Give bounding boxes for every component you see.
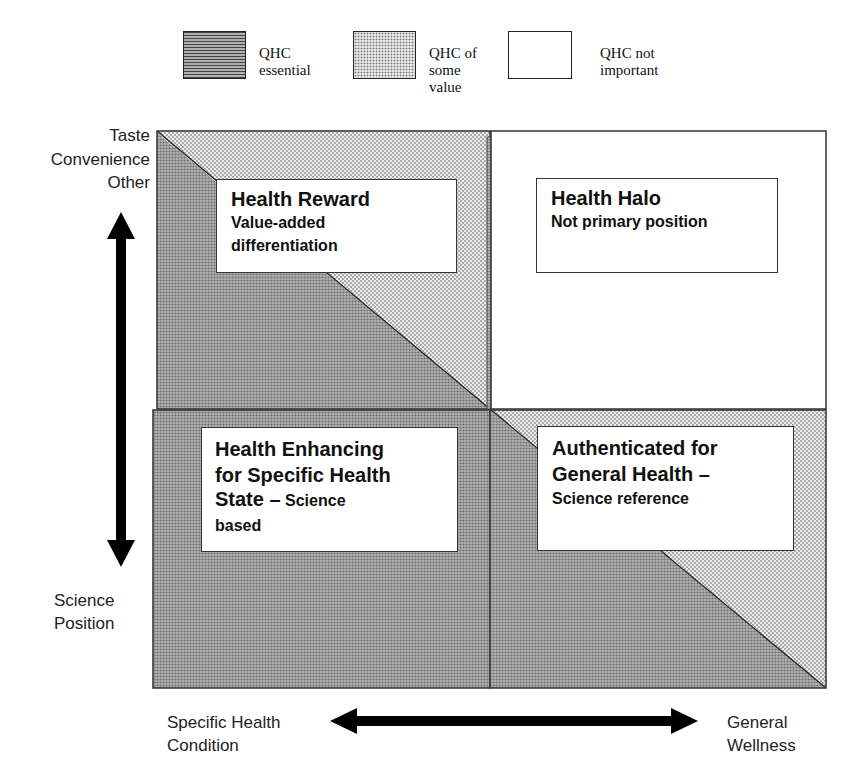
axis-label-line: Condition bbox=[167, 735, 280, 756]
quadrant-subtitle: Not primary position bbox=[551, 210, 763, 233]
x-axis-right-label: General Wellness bbox=[727, 712, 796, 756]
axis-label-line: Wellness bbox=[727, 735, 796, 756]
quadrant-subtitle: Science bbox=[285, 492, 345, 509]
axis-label-line: Specific Health bbox=[167, 712, 280, 733]
quadrant-title: Health Reward bbox=[231, 188, 442, 211]
axis-label-line: Science bbox=[54, 590, 114, 611]
quadrant-subtitle: Value-added bbox=[231, 211, 442, 234]
x-axis-left-label: Specific Health Condition bbox=[167, 712, 280, 756]
quadrant-title: Authenticated for bbox=[552, 435, 779, 461]
quadrant-authenticated-general-health: Authenticated for General Health – Scien… bbox=[537, 426, 794, 551]
axis-label-line: General bbox=[727, 712, 796, 733]
quadrant-subtitle: based bbox=[215, 514, 444, 538]
axis-label-line: Other bbox=[40, 172, 150, 193]
vertical-double-arrow bbox=[107, 212, 135, 567]
axis-label-line: Convenience bbox=[40, 149, 150, 170]
quadrant-subtitle: Science reference bbox=[552, 487, 779, 511]
quadrant-health-enhancing: Health Enhancing for Specific Health Sta… bbox=[201, 427, 458, 552]
positioning-matrix bbox=[0, 0, 853, 781]
quadrant-health-reward: Health Reward Value-added differentiatio… bbox=[216, 179, 457, 273]
quadrant-title: Health Halo bbox=[551, 187, 763, 210]
quadrant-title: State – bbox=[215, 488, 281, 510]
y-axis-top-label: Taste Convenience Other bbox=[40, 125, 150, 193]
quadrant-title: General Health – bbox=[552, 461, 779, 487]
quadrant-title-mixed-line: State – Science bbox=[215, 488, 444, 514]
y-axis-bottom-label: Science Position bbox=[54, 590, 114, 634]
axis-label-line: Position bbox=[54, 613, 114, 634]
horizontal-double-arrow bbox=[330, 708, 698, 734]
quadrant-title: Health Enhancing bbox=[215, 436, 444, 462]
quadrant-title: for Specific Health bbox=[215, 462, 444, 488]
quadrant-subtitle: differentiation bbox=[231, 234, 442, 257]
quadrant-health-halo: Health Halo Not primary position bbox=[536, 178, 778, 273]
axis-label-line: Taste bbox=[40, 125, 150, 146]
